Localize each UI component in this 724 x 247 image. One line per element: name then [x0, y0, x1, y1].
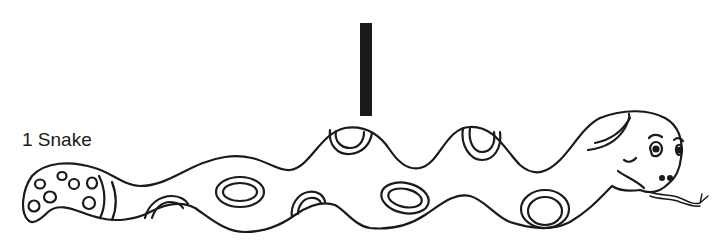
- snake-drawing: [0, 0, 724, 247]
- tongue-icon: [650, 192, 708, 206]
- snake-body-outline: [23, 111, 682, 232]
- worksheet-canvas: 1 Snake: [0, 0, 724, 247]
